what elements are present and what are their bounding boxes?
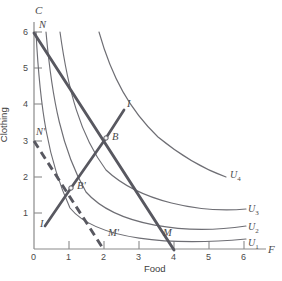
curve-label-u2-sub: 2: [255, 227, 259, 235]
curve-u3: [60, 32, 246, 210]
annotation-point-m-prime: M': [108, 228, 119, 239]
curve-label-u3-sub: 3: [255, 209, 259, 217]
curve-u4: [99, 32, 226, 177]
curve-u1: [36, 32, 246, 242]
x-axis-symbol: F: [268, 244, 275, 255]
indifference-curve-chart: C F Food Clothing 0 1 2 3 4 5 6 1 2 3 4 …: [0, 0, 282, 281]
y-tick-label-5: 5: [23, 64, 28, 73]
annotation-point-n: N: [39, 20, 46, 31]
y-tick-label-1: 1: [23, 209, 28, 218]
point-b-prime-marker: [69, 186, 73, 190]
x-tick-label-1: 1: [66, 253, 71, 262]
y-tick-label-4: 4: [23, 100, 28, 109]
x-tick-label-6: 6: [241, 253, 246, 262]
annotation-point-m: M: [163, 228, 172, 239]
annotation-point-b-prime: B': [77, 181, 86, 192]
y-tick-label-2: 2: [23, 173, 28, 182]
point-b-marker: [104, 136, 108, 140]
annotation-point-b: B: [112, 132, 118, 143]
x-tick-label-0: 0: [31, 253, 36, 262]
curve-label-u3: U3: [248, 204, 259, 217]
x-axis-ticks: [69, 241, 244, 249]
annotation-point-n-prime: N': [36, 127, 45, 138]
curve-label-u4-sub: 4: [237, 175, 241, 183]
y-axis-title: Clothing: [0, 107, 8, 142]
x-tick-label-2: 2: [101, 253, 106, 262]
curve-u2: [46, 32, 246, 229]
y-tick-label-3: 3: [23, 137, 28, 146]
x-tick-label-3: 3: [136, 253, 141, 262]
curve-label-u1-sub: 1: [255, 243, 259, 251]
chart-canvas: [0, 0, 282, 281]
y-axis-symbol: C: [35, 5, 42, 16]
annotation-label-i-upper: I: [127, 99, 131, 110]
x-tick-label-5: 5: [206, 253, 211, 262]
x-axis-title: Food: [144, 264, 166, 274]
annotation-label-i-lower: I: [40, 219, 44, 230]
curve-label-u1: U1: [248, 238, 259, 251]
x-tick-label-4: 4: [171, 253, 176, 262]
y-tick-label-6: 6: [23, 28, 28, 37]
income-consumption-line: [45, 110, 124, 226]
curve-label-u2: U2: [248, 222, 259, 235]
curve-label-u4: U4: [230, 170, 241, 183]
